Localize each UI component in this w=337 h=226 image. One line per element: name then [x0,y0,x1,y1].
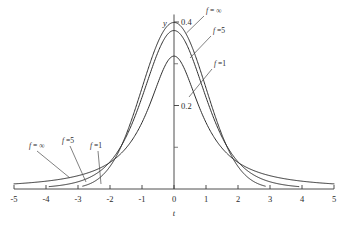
curve-annotations: f = ∞f =5f =1f = ∞f =5f =1 [29,6,226,150]
x-tick-label: -1 [138,194,145,204]
y-tick-label: 0.4 [181,17,192,27]
axes [14,14,334,189]
curve-annotation-right-1: f = ∞ [206,6,222,15]
x-tick-label: -3 [74,194,81,204]
curve-annotation-left-1: f = ∞ [29,141,45,150]
chart-canvas: -5-4-3-2-1012345 0.20.4 f = ∞f =5f =1f =… [0,0,337,226]
x-axis-tick-labels: -5-4-3-2-1012345 [10,194,336,204]
y-axis-ticks [174,22,179,147]
x-tick-label: 1 [204,194,208,204]
y-axis-tick-labels: 0.20.4 [181,17,192,111]
x-tick-label: 5 [332,194,336,204]
leader-line-right-2 [190,36,211,58]
curve-annotation-left-2: f =5 [62,136,74,145]
x-tick-label: -2 [106,194,113,204]
x-tick-label: 2 [236,194,240,204]
y-axis-label: y [162,18,167,28]
x-axis-label: t [173,208,176,218]
leader-line-right-3 [189,69,212,97]
t-distribution-chart: -5-4-3-2-1012345 0.20.4 f = ∞f =5f =1f =… [0,0,337,226]
y-tick-label: 0.2 [181,101,192,111]
x-tick-label: -4 [42,194,50,204]
x-tick-label: 0 [172,194,176,204]
curve-annotation-right-3: f =1 [214,59,226,68]
curve-annotation-left-3: f =1 [90,141,102,150]
curve-annotation-right-2: f =5 [213,26,225,35]
leader-line-left-1 [37,151,70,178]
x-tick-label: -5 [10,194,17,204]
x-tick-label: 3 [268,194,272,204]
x-tick-label: 4 [300,194,305,204]
